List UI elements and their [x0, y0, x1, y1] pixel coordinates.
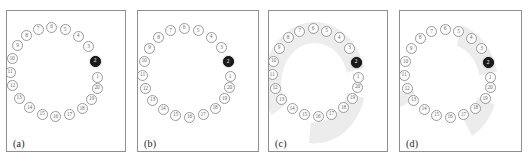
node-6: 6: [440, 24, 451, 35]
sector-lower-right-d: [447, 83, 510, 146]
node-11: 11: [268, 69, 278, 80]
node-9: 9: [144, 43, 155, 54]
node-8: 8: [415, 33, 426, 44]
node-2: 2: [223, 56, 234, 67]
node-4: 4: [466, 33, 477, 44]
node-19: 19: [219, 93, 230, 104]
node-5: 5: [453, 26, 464, 37]
node-12: 12: [402, 83, 413, 94]
node-17: 17: [458, 109, 469, 120]
node-4: 4: [334, 32, 345, 43]
panel-c-label: (c): [275, 138, 287, 149]
node-3: 3: [344, 43, 355, 54]
node-13: 13: [14, 93, 25, 104]
node-10: 10: [7, 53, 18, 64]
node-15: 15: [170, 110, 181, 121]
node-1: 1: [92, 72, 103, 83]
figure-container: 1234567891011121314151617181920 (a) 1234…: [0, 0, 528, 164]
node-18: 18: [470, 103, 481, 114]
node-2: 2: [351, 57, 362, 68]
node-16: 16: [313, 111, 324, 122]
node-15: 15: [37, 109, 48, 120]
node-5: 5: [321, 26, 332, 37]
node-2: 2: [483, 57, 494, 68]
node-19: 19: [480, 93, 491, 104]
panel-a: 1234567891011121314151617181920 (a): [6, 10, 126, 152]
node-10: 10: [139, 56, 150, 67]
node-13: 13: [147, 95, 158, 106]
node-20: 20: [485, 82, 496, 93]
node-1: 1: [225, 71, 236, 82]
node-14: 14: [158, 104, 169, 115]
node-3: 3: [216, 42, 227, 53]
node-10: 10: [400, 56, 411, 67]
node-14: 14: [287, 103, 298, 114]
node-12: 12: [270, 83, 281, 94]
node-20: 20: [224, 82, 235, 93]
node-8: 8: [283, 32, 294, 43]
node-17: 17: [326, 109, 337, 120]
node-19: 19: [347, 93, 358, 104]
panel-d-label: (d): [406, 138, 418, 149]
node-4: 4: [206, 32, 217, 43]
node-6: 6: [179, 23, 190, 34]
node-7: 7: [165, 25, 176, 36]
node-17: 17: [198, 109, 209, 120]
node-11: 11: [399, 70, 410, 81]
panel-b: 1234567891011121314151617181920 (b): [137, 10, 259, 152]
node-16: 16: [184, 112, 195, 123]
node-8: 8: [153, 32, 164, 43]
node-18: 18: [210, 103, 221, 114]
node-18: 18: [338, 102, 349, 113]
node-9: 9: [12, 40, 23, 51]
node-14: 14: [419, 104, 430, 115]
node-4: 4: [73, 31, 84, 42]
node-11: 11: [6, 67, 16, 78]
node-17: 17: [64, 109, 75, 120]
node-3: 3: [476, 43, 487, 54]
panel-c: 1234567891011121314151617181920 (c): [268, 10, 388, 152]
node-16: 16: [50, 111, 61, 122]
node-2: 2: [90, 56, 101, 67]
node-16: 16: [445, 112, 456, 123]
node-20: 20: [352, 82, 363, 93]
node-19: 19: [86, 94, 97, 105]
node-6: 6: [46, 22, 57, 33]
node-10: 10: [268, 56, 279, 67]
node-13: 13: [276, 94, 287, 105]
node-3: 3: [83, 41, 94, 52]
node-13: 13: [408, 95, 419, 106]
node-15: 15: [431, 110, 442, 121]
node-15: 15: [299, 109, 310, 120]
node-8: 8: [21, 30, 32, 41]
node-1: 1: [353, 72, 364, 83]
panel-b-label: (b): [144, 138, 156, 149]
node-12: 12: [140, 83, 151, 94]
node-9: 9: [406, 43, 417, 54]
node-7: 7: [294, 26, 305, 37]
panel-a-label: (a): [13, 138, 25, 149]
node-14: 14: [24, 102, 35, 113]
node-5: 5: [60, 24, 71, 35]
node-7: 7: [426, 26, 437, 37]
node-6: 6: [308, 23, 319, 34]
node-18: 18: [77, 103, 88, 114]
node-12: 12: [7, 80, 18, 91]
node-7: 7: [33, 24, 44, 35]
node-11: 11: [137, 70, 148, 81]
node-9: 9: [274, 43, 285, 54]
panel-d: 1234567891011121314151617181920 (d): [399, 10, 522, 152]
node-5: 5: [193, 25, 204, 36]
node-20: 20: [92, 83, 103, 94]
